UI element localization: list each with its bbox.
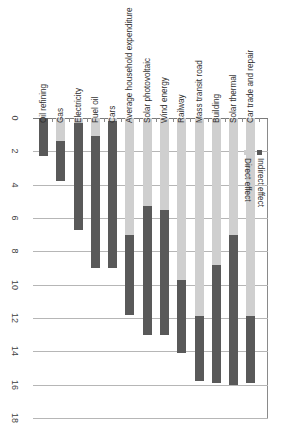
- category-label-solar-thermal: Solar thermal: [229, 74, 238, 123]
- value-tick-label-18: 18: [10, 405, 20, 431]
- bar-segment-direct-effect: [125, 118, 134, 235]
- category-label-electricity: Electricity: [74, 88, 83, 123]
- category-tick-5: [139, 118, 140, 122]
- value-tick-label-14: 14: [10, 338, 20, 364]
- value-tick-label-12: 12: [10, 305, 20, 331]
- plot-area: 024681012141618: [33, 118, 268, 418]
- category-tick-4: [121, 118, 122, 122]
- category-label-fuel-oil: Fuel oil: [91, 97, 100, 123]
- value-tick-label-2: 2: [10, 138, 20, 164]
- category-label-car-trade-and-repair: Car trade and repair: [246, 50, 255, 123]
- bar-segment-direct-effect: [212, 118, 221, 265]
- bar-segment-indirect-effect: [91, 136, 100, 268]
- category-label-mass-transit-road: Mass transit road: [195, 60, 204, 123]
- bar-segment-direct-effect: [177, 118, 186, 280]
- category-label-cars: Cars: [108, 106, 117, 123]
- bar-segment-indirect-effect: [108, 121, 117, 268]
- bar-segment-indirect-effect: [246, 316, 255, 383]
- bar-segment-direct-effect: [195, 118, 204, 316]
- category-tick-3: [104, 118, 105, 122]
- bar-segment-indirect-effect: [56, 141, 65, 181]
- category-tick-11: [242, 118, 243, 122]
- category-label-solar-photovoltaic: Solar photovoltaic: [143, 58, 152, 123]
- category-label-oil-refining: Oil refining: [39, 84, 48, 123]
- gridline-16: [33, 385, 268, 386]
- category-tick-2: [87, 118, 88, 122]
- bar-segment-indirect-effect: [160, 210, 169, 335]
- category-tick-6: [156, 118, 157, 122]
- bar-segment-indirect-effect: [212, 265, 221, 383]
- category-tick-0: [52, 118, 53, 122]
- value-tick-label-16: 16: [10, 372, 20, 398]
- bar-segment-indirect-effect: [74, 123, 83, 230]
- value-tick-label-8: 8: [10, 238, 20, 264]
- bar-segment-direct-effect: [143, 118, 152, 206]
- bar-segment-indirect-effect: [229, 235, 238, 385]
- category-tick-7: [173, 118, 174, 122]
- category-label-wind-energy: Wind energy: [160, 77, 169, 123]
- value-tick-label-0: 0: [10, 105, 20, 131]
- indirect-swatch-icon: [258, 150, 263, 155]
- value-tick-label-4: 4: [10, 172, 20, 198]
- legend-item-indirect-effect[interactable]: Indirect effect: [251, 150, 265, 207]
- category-label-gas: Gas: [56, 108, 65, 123]
- bar-segment-indirect-effect: [39, 118, 48, 156]
- bar-segment-indirect-effect: [177, 280, 186, 353]
- bar-segment-indirect-effect: [195, 316, 204, 381]
- chart-legend: Direct effectIndirect effect: [252, 150, 282, 300]
- bar-segment-indirect-effect: [143, 206, 152, 334]
- gridline-18: [33, 418, 268, 419]
- bar-segment-direct-effect: [229, 118, 238, 235]
- category-label-average-household-expenditure: Average household expenditure: [125, 8, 134, 123]
- bar-segment-indirect-effect: [125, 235, 134, 315]
- direct-swatch-icon: [245, 150, 250, 155]
- value-tick-label-6: 6: [10, 205, 20, 231]
- category-tick-10: [225, 118, 226, 122]
- category-tick-8: [190, 118, 191, 122]
- category-label-building: Building: [212, 94, 221, 123]
- bar-segment-direct-effect: [160, 118, 169, 210]
- category-tick-9: [208, 118, 209, 122]
- legend-label: Indirect effect: [256, 158, 265, 207]
- category-tick-12: [259, 118, 260, 122]
- value-tick-label-10: 10: [10, 272, 20, 298]
- category-tick-1: [69, 118, 70, 122]
- chart-figure: 024681012141618 Oil refiningGasElectrici…: [0, 0, 282, 440]
- legend-item-direct-effect[interactable]: Direct effect: [238, 150, 252, 202]
- category-label-railway: Railway: [177, 94, 186, 123]
